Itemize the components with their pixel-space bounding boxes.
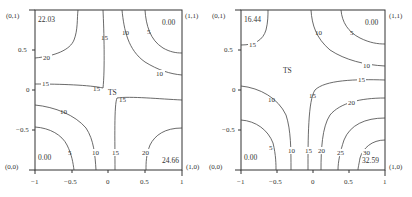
left-panel: 20 15 10 5 15 15 10 15 10 5 10 15 20 22.… [5, 10, 200, 186]
x-tick-label: −0.5 [64, 178, 77, 186]
contour-5-tr [145, 10, 182, 53]
contour-label: 15 [249, 41, 257, 49]
corner-label-br: (1,0) [389, 163, 403, 171]
y-tick-label: 0 [26, 86, 30, 94]
contour-label: 5 [147, 28, 151, 36]
x-tick-label: 1 [383, 178, 387, 186]
ts-label: TS [108, 88, 117, 97]
contour-label: 15 [358, 76, 366, 84]
contour-label: 20 [43, 54, 51, 62]
contour-label: 10 [122, 29, 130, 37]
x-tick-label: −0.5 [269, 178, 282, 186]
contour-5-tr [341, 10, 385, 44]
y-tick-label: 0.5 [224, 46, 233, 54]
corner-value-tr: 0.00 [365, 18, 378, 27]
contour-label: 15 [305, 147, 313, 155]
x-tick-label: 0.5 [140, 178, 149, 186]
contour-label: 10 [315, 29, 323, 37]
contour-label: 5 [350, 29, 354, 37]
corner-value-br: 32.59 [362, 156, 379, 165]
x-tick-label: 0.5 [344, 178, 353, 186]
contour-label: 10 [92, 149, 100, 157]
right-plot-frame [241, 10, 385, 170]
contour-label: 20 [348, 99, 356, 107]
y-tick-label: −0.5 [16, 126, 29, 134]
y-tick-label: 0.5 [18, 46, 27, 54]
figure: 20 15 10 5 15 15 10 15 10 5 10 15 20 22.… [0, 0, 412, 197]
contour-label: 15 [93, 85, 101, 93]
contour-label: 20 [142, 149, 150, 157]
corner-label-tr: (1,1) [389, 12, 403, 20]
contour-label: 15 [119, 96, 127, 104]
contour-label: 15 [42, 80, 50, 88]
x-tick-label: 0 [311, 178, 315, 186]
contour-label: 15 [101, 34, 109, 42]
x-tick-label: −1 [237, 178, 245, 186]
corner-value-tl: 22.03 [38, 15, 55, 24]
corner-value-br: 24.66 [162, 156, 179, 165]
contour-label: 15 [309, 92, 317, 100]
corner-label-bl: (0,0) [209, 163, 223, 171]
corner-label-tr: (1,1) [185, 12, 199, 20]
x-tick-label: 1 [180, 178, 184, 186]
corner-value-bl: 0.00 [244, 153, 257, 162]
corner-label-tl: (0,1) [212, 12, 226, 20]
corner-value-bl: 0.00 [38, 153, 51, 162]
contour-label: 20 [318, 147, 326, 155]
contour-label: 5 [68, 149, 72, 157]
contour-label: 10 [156, 70, 164, 78]
contour-label: 25 [337, 149, 345, 157]
x-tick-label: −1 [31, 178, 39, 186]
ts-label: TS [283, 66, 292, 75]
corner-label-bl: (0,0) [5, 163, 19, 171]
contour-plots: 20 15 10 5 15 15 10 15 10 5 10 15 20 22.… [0, 0, 412, 197]
contour-label: 10 [268, 96, 276, 104]
corner-value-tl: 16.44 [244, 15, 261, 24]
contour-label: 10 [363, 62, 371, 70]
y-tick-label: −0.5 [222, 126, 235, 134]
y-tick-label: 0 [232, 86, 236, 94]
contour-label: 10 [288, 147, 296, 155]
x-tick-label: 0 [106, 178, 110, 186]
contour-label: 5 [269, 144, 273, 152]
contour-label: 15 [112, 149, 120, 157]
corner-value-tr: 0.00 [162, 18, 175, 27]
right-panel: 15 10 5 10 15 15 10 20 5 10 15 20 25 30 … [209, 10, 403, 186]
contour-label: 10 [60, 108, 68, 116]
corner-label-br: (1,0) [186, 163, 200, 171]
corner-label-tl: (0,1) [6, 12, 20, 20]
